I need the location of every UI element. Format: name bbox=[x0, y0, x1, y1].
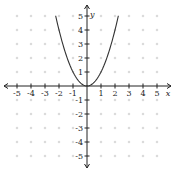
y-tick-label: 4 bbox=[78, 26, 83, 35]
x-tick-label: -5 bbox=[13, 89, 21, 98]
x-tick-label: -4 bbox=[27, 89, 35, 98]
x-tick-label: 4 bbox=[140, 89, 145, 98]
y-tick-label: 1 bbox=[78, 68, 83, 77]
x-tick-label: -3 bbox=[41, 89, 49, 98]
y-tick-label: 2 bbox=[78, 54, 83, 63]
y-axis-label: y bbox=[89, 10, 95, 19]
x-tick-label: 2 bbox=[112, 89, 117, 98]
y-tick-label: -4 bbox=[75, 138, 83, 147]
coordinate-plane: -5-4-3-2-112345-5-4-3-2-112345 x y bbox=[0, 0, 175, 171]
x-tick-label: 1 bbox=[98, 89, 103, 98]
y-tick-label: 3 bbox=[78, 40, 83, 49]
y-tick-label: 5 bbox=[78, 12, 83, 21]
x-axis-label: x bbox=[166, 89, 171, 98]
y-tick-label: -5 bbox=[75, 152, 83, 161]
x-tick-label: 5 bbox=[154, 89, 159, 98]
y-tick-label: -1 bbox=[75, 96, 83, 105]
y-tick-label: -3 bbox=[75, 124, 83, 133]
x-tick-label: 3 bbox=[126, 89, 131, 98]
y-tick-label: -2 bbox=[75, 110, 83, 119]
x-tick-label: -2 bbox=[55, 89, 63, 98]
